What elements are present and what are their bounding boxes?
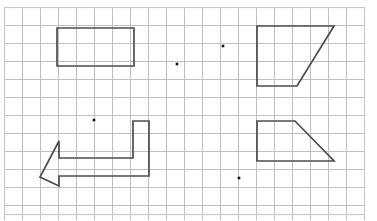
trapezoid-top-right: Right trapezoid (upper) xyxy=(257,26,334,86)
grid-vertical-lines xyxy=(5,8,365,221)
shapes-layer: RectangleLeft-pointing arrowRight trapez… xyxy=(40,26,334,186)
point-center-upper-left: Point B xyxy=(176,63,179,66)
worksheet-canvas: Grid worksheet with geometric shapes Rec… xyxy=(0,0,377,220)
rectangle: Rectangle xyxy=(57,28,134,66)
trapezoid-bottom-right: Right trapezoid (lower) xyxy=(257,121,334,161)
point-center-left: Point C xyxy=(93,119,96,122)
point-center-lower-right: Point D xyxy=(238,177,241,180)
point-center-upper-right: Point A xyxy=(222,45,225,48)
geometry-figure: Grid worksheet with geometric shapes Rec… xyxy=(0,0,377,220)
